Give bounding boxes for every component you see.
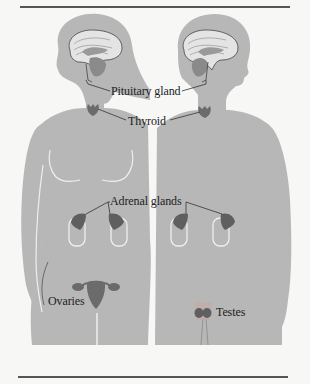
testes-icon <box>194 302 211 320</box>
body-silhouettes <box>0 0 310 384</box>
male-silhouette <box>155 14 291 345</box>
thyroid-label: Thyroid <box>128 115 166 127</box>
testes-label: Testes <box>216 306 245 318</box>
endocrine-diagram: Pituitary gland Thyroid Adrenal glands O… <box>0 0 310 384</box>
ovaries-label: Ovaries <box>48 295 85 307</box>
pituitary-label: Pituitary gland <box>111 85 181 97</box>
adrenal-label: Adrenal glands <box>110 195 182 207</box>
